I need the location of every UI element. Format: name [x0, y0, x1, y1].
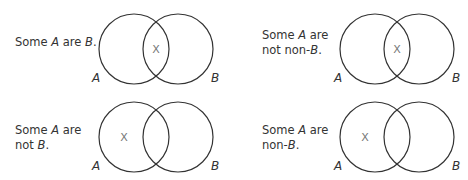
venn-some-a-are-b: ABX: [91, 14, 219, 85]
caption-text: not non-: [262, 43, 310, 57]
caption-text: .: [318, 43, 322, 57]
caption-term: A: [51, 123, 59, 137]
caption-text: Some: [262, 123, 298, 137]
caption-text: are: [59, 123, 81, 137]
caption-line: Some A are: [262, 28, 328, 43]
venn-diagrams-canvas: ABXABXABXABX: [0, 0, 468, 180]
set-label-a: A: [91, 71, 100, 85]
set-label-b: B: [211, 71, 219, 85]
caption-text: .: [93, 35, 97, 49]
circle-a: [99, 102, 169, 172]
caption-text: Some: [15, 123, 51, 137]
venn-some-a-are-non-b: ABX: [333, 102, 460, 173]
x-mark: X: [393, 43, 401, 56]
set-label-a: A: [333, 159, 342, 173]
circle-b: [143, 102, 213, 172]
caption-line: not B.: [15, 138, 81, 153]
caption-some-a-are-non-b: Some A arenon-B.: [262, 123, 328, 153]
caption-term: B: [85, 35, 93, 49]
x-mark: X: [361, 131, 369, 144]
caption-text: not: [15, 138, 38, 152]
set-label-b: B: [211, 159, 219, 173]
venn-some-a-are-not-b: ABX: [91, 102, 219, 173]
x-mark: X: [152, 43, 160, 56]
caption-text: are: [306, 28, 328, 42]
caption-some-a-are-not-b: Some A arenot B.: [15, 123, 81, 153]
venn-some-a-are-not-non-b: ABX: [333, 14, 460, 85]
set-label-b: B: [452, 159, 460, 173]
caption-text: non-: [262, 138, 288, 152]
caption-line: Some A are B.: [15, 35, 97, 50]
caption-line: Some A are: [15, 123, 81, 138]
caption-text: are: [59, 35, 85, 49]
caption-text: .: [296, 138, 300, 152]
caption-line: not non-B.: [262, 43, 328, 58]
caption-some-a-are-not-non-b: Some A arenot non-B.: [262, 28, 328, 58]
caption-line: Some A are: [262, 123, 328, 138]
caption-text: Some: [15, 35, 51, 49]
caption-term: B: [288, 138, 296, 152]
caption-term: A: [298, 123, 306, 137]
set-label-a: A: [333, 71, 342, 85]
set-label-b: B: [452, 71, 460, 85]
caption-term: A: [298, 28, 306, 42]
caption-text: .: [45, 138, 49, 152]
caption-line: non-B.: [262, 138, 328, 153]
set-label-a: A: [91, 159, 100, 173]
caption-some-a-are-b: Some A are B.: [15, 35, 97, 50]
circle-b: [384, 102, 454, 172]
circle-a: [340, 102, 410, 172]
x-mark: X: [120, 131, 128, 144]
caption-text: are: [306, 123, 328, 137]
venn-diagram-figure: ABXABXABXABX Some A are B.Some A arenot …: [0, 0, 468, 180]
caption-term: B: [310, 43, 318, 57]
caption-text: Some: [262, 28, 298, 42]
caption-term: A: [51, 35, 59, 49]
